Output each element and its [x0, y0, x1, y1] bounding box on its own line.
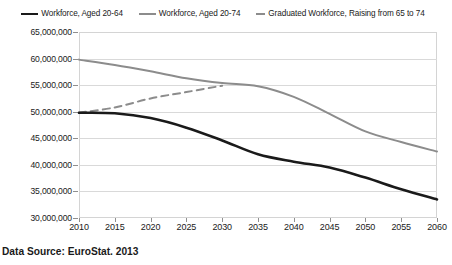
y-axis-tick-label: 40,000,000	[0, 160, 72, 169]
y-axis-tick	[73, 218, 78, 219]
x-axis-tick	[437, 218, 438, 222]
x-axis-tick	[186, 218, 187, 222]
legend-swatch-solid-dark-icon	[21, 13, 38, 15]
legend-swatch-solid-gray-icon	[139, 13, 156, 15]
legend-item-label: Workforce, Aged 20-64	[41, 9, 123, 19]
x-axis-labels: 2010201520202025203020352040204520502055…	[0, 221, 446, 235]
x-axis-tick-label: 2050	[345, 221, 385, 233]
legend-item[interactable]: Workforce, Aged 20-64	[21, 9, 123, 19]
legend-item[interactable]: Workforce, Aged 20-74	[139, 9, 241, 19]
y-axis-tick	[73, 191, 78, 192]
source-note: Data Source: EuroStat. 2013	[2, 245, 138, 258]
y-axis-tick-label: 50,000,000	[0, 107, 72, 116]
x-axis-tick	[401, 218, 402, 222]
y-axis-tick	[73, 112, 78, 113]
x-axis-tick	[330, 218, 331, 222]
x-axis-tick	[79, 218, 80, 222]
x-axis-tick	[365, 218, 366, 222]
series-lines	[79, 32, 437, 218]
series-line	[79, 86, 222, 113]
x-axis-tick-label: 2030	[202, 221, 242, 233]
y-axis-tick-label: 65,000,000	[0, 28, 72, 37]
x-axis-tick	[222, 218, 223, 222]
y-axis-tick	[73, 165, 78, 166]
y-axis-tick	[73, 85, 78, 86]
y-axis-tick-label: 35,000,000	[0, 187, 72, 196]
legend-item-label: Graduated Workforce, Raising from 65 to …	[268, 9, 424, 19]
y-axis-tick	[73, 59, 78, 60]
x-axis-tick-label: 2040	[274, 221, 314, 233]
x-axis-tick-label: 2045	[310, 221, 350, 233]
y-axis-tick-label: 60,000,000	[0, 54, 72, 63]
y-axis-tick	[73, 138, 78, 139]
y-axis-tick	[73, 32, 78, 33]
x-axis-tick	[294, 218, 295, 222]
series-line	[79, 60, 437, 152]
y-axis-tick-label: 45,000,000	[0, 134, 72, 143]
y-axis-tick-label: 55,000,000	[0, 81, 72, 90]
x-axis-tick	[115, 218, 116, 222]
legend-item[interactable]: Graduated Workforce, Raising from 65 to …	[256, 9, 424, 19]
x-axis-tick-label: 2055	[381, 221, 421, 233]
x-axis-tick-label: 2015	[95, 221, 135, 233]
x-axis-tick-label: 2060	[417, 221, 452, 233]
x-axis-tick-label: 2035	[238, 221, 278, 233]
x-axis-tick-label: 2025	[166, 221, 206, 233]
x-axis-tick	[258, 218, 259, 222]
chart-legend: Workforce, Aged 20-64Workforce, Aged 20-…	[0, 6, 446, 22]
y-axis-labels: 30,000,00035,000,00040,000,00045,000,000…	[0, 32, 72, 218]
legend-item-label: Workforce, Aged 20-74	[159, 9, 241, 19]
x-axis-tick-label: 2010	[59, 221, 99, 233]
legend-swatch-dashed-gray-icon	[256, 13, 265, 15]
series-line	[79, 113, 437, 200]
x-axis-tick-label: 2020	[131, 221, 171, 233]
x-axis-tick	[151, 218, 152, 222]
plot-area	[79, 32, 437, 218]
